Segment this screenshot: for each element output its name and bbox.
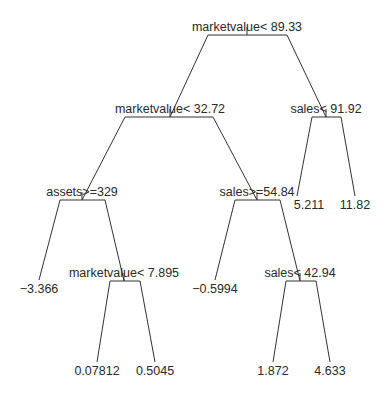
split-edges-n3 <box>297 117 355 196</box>
tree-labels: marketvalue< 89.33marketvalue< 32.72sale… <box>20 20 371 378</box>
regression-tree: marketvalue< 89.33marketvalue< 32.72sale… <box>0 0 389 403</box>
leaf-value: −0.5994 <box>192 282 238 296</box>
split-label: sales< 42.94 <box>264 266 335 280</box>
split-label: marketvalue< 32.72 <box>115 102 225 116</box>
split-edges-n6 <box>97 281 155 362</box>
leaf-value: −3.366 <box>20 282 59 296</box>
leaf-value: 0.5045 <box>136 364 174 378</box>
leaf-value: 11.82 <box>340 198 370 212</box>
split-label: sales< 91.92 <box>290 102 361 116</box>
split-label: assets>=329 <box>46 185 118 199</box>
split-edges-n7 <box>273 281 330 362</box>
leaf-value: 0.07812 <box>74 364 119 378</box>
leaf-value: 5.211 <box>294 198 324 212</box>
split-label: sales>=54.84 <box>219 185 294 199</box>
split-label: marketvalue< 7.895 <box>69 266 179 280</box>
split-label: marketvalue< 89.33 <box>192 20 302 34</box>
leaf-value: 1.872 <box>257 364 288 378</box>
leaf-value: 4.633 <box>314 364 345 378</box>
